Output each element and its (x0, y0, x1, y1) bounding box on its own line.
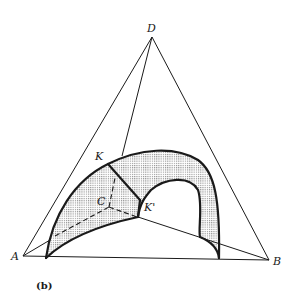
shaded-region (46, 151, 219, 258)
edge-AB (23, 256, 269, 260)
label-K: K (94, 150, 104, 163)
edge-DC (122, 37, 152, 156)
label-B: B (272, 255, 281, 268)
label-C: C (97, 195, 106, 208)
tetrahedron-diagram: D A B C K K' (b) (0, 0, 296, 305)
figure-caption: (b) (36, 280, 52, 291)
label-K-prime: K' (143, 201, 155, 214)
label-D: D (146, 22, 156, 35)
label-A: A (10, 250, 19, 263)
